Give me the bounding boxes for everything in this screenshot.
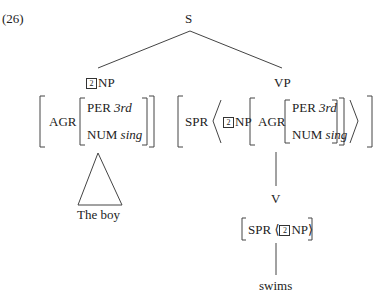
num-value: sing bbox=[326, 127, 348, 142]
node-vp: VP bbox=[274, 76, 291, 89]
np-num-row: NUM sing bbox=[87, 128, 142, 141]
tag-2-box: 2 bbox=[86, 78, 97, 89]
np-label: NP bbox=[235, 114, 252, 129]
node-np: 2NP bbox=[86, 76, 115, 89]
tag-2-box: 2 bbox=[279, 225, 290, 236]
num-label: NUM bbox=[87, 127, 117, 142]
per-value: 3rd bbox=[114, 100, 132, 115]
np-per-row: PER 3rd bbox=[87, 101, 132, 114]
per-label: PER bbox=[292, 100, 316, 115]
np-label: NP bbox=[291, 222, 308, 237]
per-label: PER bbox=[87, 100, 111, 115]
np-label: NP bbox=[98, 75, 115, 90]
vp-spr-np: 2NP bbox=[223, 115, 252, 128]
vp-spr-label: SPR bbox=[185, 115, 208, 128]
spr-label: SPR bbox=[248, 222, 271, 237]
node-s: S bbox=[185, 12, 192, 25]
vp-per-row: PER 3rd bbox=[292, 101, 337, 114]
tree-lines bbox=[0, 0, 382, 296]
num-value: sing bbox=[121, 127, 143, 142]
tag-2-box: 2 bbox=[223, 117, 234, 128]
node-v: V bbox=[271, 192, 280, 205]
np-terminal: The boy bbox=[77, 208, 120, 221]
np-agr-label: AGR bbox=[49, 115, 76, 128]
v-avm: SPR ⟨2NP⟩ bbox=[248, 223, 313, 236]
vp-num-row: NUM sing bbox=[292, 128, 347, 141]
example-number: (26) bbox=[2, 12, 24, 25]
num-label: NUM bbox=[292, 127, 322, 142]
per-value: 3rd bbox=[319, 100, 337, 115]
vp-agr-label: AGR bbox=[258, 115, 285, 128]
v-terminal: swims bbox=[259, 279, 292, 292]
